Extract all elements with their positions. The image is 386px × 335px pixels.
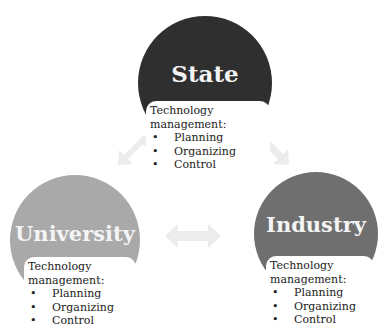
card-heading: management:: [28, 274, 132, 288]
card-heading: Technology: [28, 260, 132, 274]
list-item: Organizing: [270, 300, 370, 314]
list-item: Planning: [270, 286, 370, 300]
card-heading: management:: [270, 273, 370, 287]
card-list: Planning Organizing Control: [270, 286, 370, 327]
list-item: Organizing: [150, 145, 266, 159]
card-heading: Technology: [270, 259, 370, 273]
list-item: Planning: [28, 287, 132, 301]
node-industry: Industry Technology management: Planning…: [254, 172, 378, 296]
card-list: Planning Organizing Control: [28, 287, 132, 328]
university-title: University: [10, 221, 140, 246]
node-university: University Technology management: Planni…: [10, 175, 140, 305]
industry-title: Industry: [254, 212, 378, 237]
list-item: Organizing: [28, 301, 132, 315]
state-title: State: [138, 60, 272, 87]
list-item: Planning: [150, 131, 266, 145]
card-heading: Technology: [150, 104, 266, 118]
node-state: State Technology management: Planning Or…: [138, 16, 272, 150]
arrow-university-industry: [165, 224, 221, 248]
list-item: Control: [28, 314, 132, 328]
list-item: Control: [270, 313, 370, 327]
industry-card: Technology management: Planning Organizi…: [266, 256, 374, 330]
university-card: Technology management: Planning Organizi…: [24, 257, 136, 331]
card-heading: management:: [150, 118, 266, 132]
card-list: Planning Organizing Control: [150, 131, 266, 172]
state-card: Technology management: Planning Organizi…: [146, 101, 270, 175]
list-item: Control: [150, 158, 266, 172]
